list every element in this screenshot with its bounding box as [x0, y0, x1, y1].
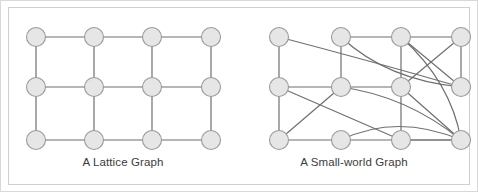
- edge-layer: [279, 37, 461, 140]
- graph-node: [332, 28, 351, 47]
- graph-edge: [279, 37, 461, 87]
- edge-layer: [36, 37, 211, 140]
- graph-node: [452, 131, 471, 150]
- graph-node: [270, 131, 289, 150]
- graph-node: [392, 78, 411, 97]
- graph-node: [392, 131, 411, 150]
- figure-root: A Lattice Graph A Small-world Graph: [0, 0, 478, 192]
- smallworld-graph-caption: A Small-world Graph: [237, 156, 471, 168]
- smallworld-graph-pane: A Small-world Graph: [237, 8, 471, 186]
- graph-node: [85, 78, 104, 97]
- graph-node: [452, 78, 471, 97]
- graph-node: [27, 78, 46, 97]
- graph-node: [202, 131, 221, 150]
- graph-node: [270, 78, 289, 97]
- lattice-graph-caption: A Lattice Graph: [9, 156, 237, 168]
- graph-edge: [401, 87, 461, 140]
- figure-panel: A Lattice Graph A Small-world Graph: [8, 7, 470, 185]
- graph-node: [332, 131, 351, 150]
- node-layer: [270, 28, 471, 150]
- lattice-graph-pane: A Lattice Graph: [9, 8, 237, 186]
- graph-node: [143, 78, 162, 97]
- lattice-graph-canvas: [9, 8, 237, 158]
- graph-node: [143, 28, 162, 47]
- graph-node: [202, 28, 221, 47]
- graph-node: [85, 28, 104, 47]
- graph-node: [332, 78, 351, 97]
- graph-node: [27, 28, 46, 47]
- graph-node: [143, 131, 162, 150]
- graph-node: [27, 131, 46, 150]
- graph-node: [452, 28, 471, 47]
- graph-node: [202, 78, 221, 97]
- graph-edge: [279, 87, 341, 140]
- graph-node: [270, 28, 289, 47]
- graph-node: [392, 28, 411, 47]
- graph-node: [85, 131, 104, 150]
- node-layer: [27, 28, 221, 150]
- smallworld-graph-canvas: [237, 8, 471, 158]
